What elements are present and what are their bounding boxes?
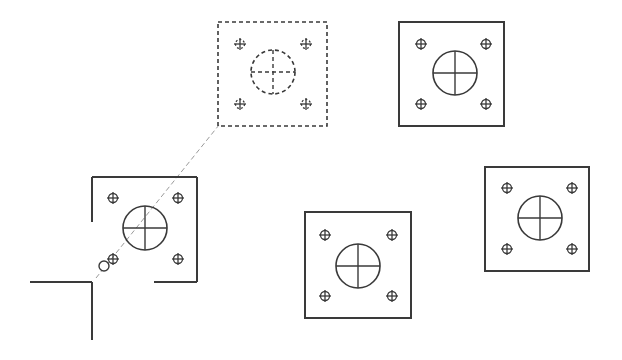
bolt-hole-icon — [480, 38, 492, 50]
base-plate-right[interactable] — [485, 167, 589, 271]
bolt-hole-icon — [300, 38, 312, 50]
bolt-hole-icon — [415, 38, 427, 50]
bolt-hole-icon — [172, 253, 184, 265]
center-hole-icon — [123, 206, 167, 250]
bolt-hole-icon — [234, 38, 246, 50]
center-hole-icon — [433, 51, 477, 95]
bolt-hole-icon — [386, 290, 398, 302]
bolt-hole-icon — [107, 192, 119, 204]
center-hole-icon — [336, 244, 380, 288]
bolt-hole-icon — [319, 229, 331, 241]
bolt-hole-icon — [300, 98, 312, 110]
base-plate-top-right[interactable] — [399, 22, 504, 126]
bolt-hole-icon — [319, 290, 331, 302]
bolt-hole-icon — [501, 182, 513, 194]
base-plate-ghost[interactable] — [218, 22, 327, 126]
drawing-svg[interactable] — [0, 0, 622, 360]
center-hole-icon — [251, 50, 295, 94]
bolt-hole-icon — [386, 229, 398, 241]
center-hole-icon — [518, 196, 562, 240]
bolt-hole-icon — [566, 182, 578, 194]
bolt-hole-icon — [501, 243, 513, 255]
bolt-hole-icon — [566, 243, 578, 255]
bolt-hole-icon — [415, 98, 427, 110]
bolt-hole-icon — [480, 98, 492, 110]
base-plate-bottom-middle[interactable] — [305, 212, 411, 318]
bolt-hole-icon — [172, 192, 184, 204]
corner-lines — [30, 282, 92, 340]
bolt-hole-icon — [234, 98, 246, 110]
snap-cursor-icon — [99, 261, 109, 271]
drawing-canvas[interactable] — [0, 0, 622, 360]
